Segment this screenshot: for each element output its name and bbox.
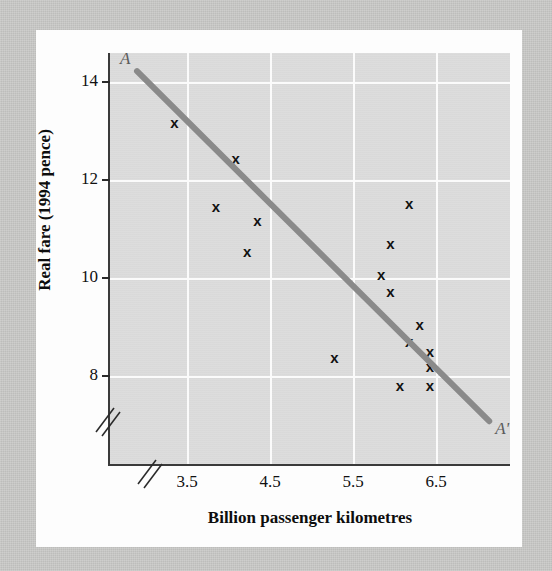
scatter-point: x — [424, 379, 437, 392]
y-tick-label-10: 10 — [58, 267, 98, 287]
y-tick-mark-14 — [102, 81, 110, 83]
trendline-start-label: A — [120, 49, 130, 69]
y-tick-label-12: 12 — [58, 169, 98, 189]
y-tick-mark-12 — [102, 179, 110, 181]
scatter-point: x — [424, 345, 437, 358]
plot-area: xxxxxxxxxxxxxxxx — [110, 53, 510, 465]
x-axis-title: Billion passenger kilometres — [110, 508, 510, 528]
scatter-point: x — [424, 360, 437, 373]
y-tick-label-8: 8 — [58, 365, 98, 385]
scatter-point: x — [403, 335, 416, 348]
x-axis-line — [108, 464, 510, 466]
gridline-y-10 — [110, 278, 510, 280]
scatter-point: x — [168, 116, 181, 129]
x-tick-label-3.5: 3.5 — [157, 472, 217, 492]
page-background: xxxxxxxxxxxxxxxx 14 12 10 8 3.5 4.5 5.5 … — [0, 0, 552, 571]
y-axis-title: Real fare (1994 pence) — [35, 95, 55, 325]
y-tick-mark-10 — [102, 277, 110, 279]
scatter-point: x — [328, 351, 341, 364]
y-tick-mark-8 — [102, 375, 110, 377]
scatter-point: x — [241, 245, 254, 258]
x-tick-label-4.5: 4.5 — [240, 472, 300, 492]
chart-figure: xxxxxxxxxxxxxxxx 14 12 10 8 3.5 4.5 5.5 … — [0, 0, 552, 571]
gridline-y-14 — [110, 82, 510, 84]
gridline-y-8 — [110, 376, 510, 378]
gridline-y-12 — [110, 180, 510, 182]
trendline-end-label: A' — [495, 419, 509, 439]
y-tick-label-14: 14 — [58, 71, 98, 91]
scatter-point: x — [413, 318, 426, 331]
gridline-x-4.5 — [270, 53, 272, 465]
scatter-point: x — [384, 285, 397, 298]
scatter-point: x — [209, 200, 222, 213]
x-tick-label-5.5: 5.5 — [323, 472, 383, 492]
gridline-x-5.5 — [353, 53, 355, 465]
scatter-point: x — [393, 379, 406, 392]
scatter-point: x — [403, 197, 416, 210]
scatter-point: x — [229, 152, 242, 165]
x-tick-label-6.5: 6.5 — [406, 472, 466, 492]
scatter-point: x — [375, 268, 388, 281]
scatter-point: x — [251, 214, 264, 227]
gridline-x-3.5 — [187, 53, 189, 465]
scatter-point: x — [384, 237, 397, 250]
gridline-x-6.5 — [436, 53, 438, 465]
y-axis-line — [108, 53, 110, 465]
